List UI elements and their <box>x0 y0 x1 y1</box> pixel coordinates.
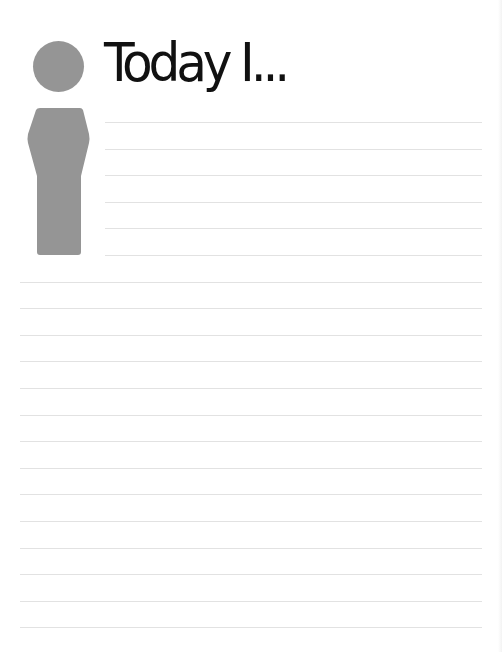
page-title: Today I... <box>104 30 286 96</box>
writing-line <box>20 441 482 442</box>
page-edge <box>498 0 502 652</box>
writing-line <box>105 202 482 203</box>
writing-line <box>20 521 482 522</box>
writing-line <box>20 282 482 283</box>
writing-line <box>105 255 482 256</box>
writing-line <box>20 494 482 495</box>
writing-line <box>105 228 482 229</box>
figure-head <box>33 41 84 92</box>
writing-line <box>105 175 482 176</box>
writing-line <box>20 601 482 602</box>
writing-line <box>20 468 482 469</box>
writing-line <box>20 361 482 362</box>
figure-body <box>28 108 90 255</box>
writing-line <box>20 415 482 416</box>
notepad-page: Today I... <box>0 0 502 652</box>
writing-line <box>105 149 482 150</box>
writing-line <box>105 122 482 123</box>
writing-line <box>20 627 482 628</box>
writing-line <box>20 388 482 389</box>
writing-line <box>20 335 482 336</box>
writing-line <box>20 548 482 549</box>
writing-line <box>20 308 482 309</box>
writing-line <box>20 574 482 575</box>
info-person-icon <box>0 0 110 270</box>
